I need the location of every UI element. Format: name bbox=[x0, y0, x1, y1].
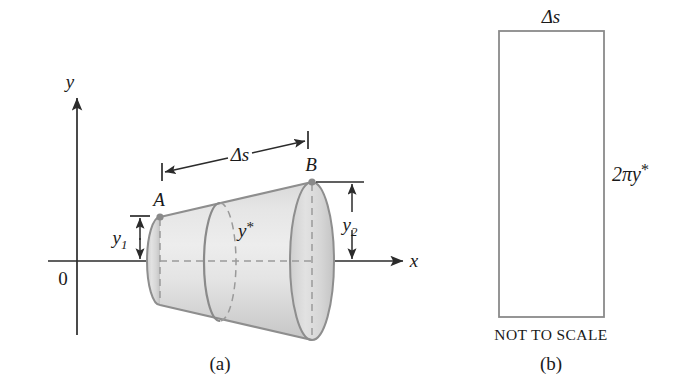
point-a-label: A bbox=[151, 189, 165, 210]
unrolled-rectangle bbox=[499, 31, 604, 317]
circumference-label-base: 2πy bbox=[612, 163, 641, 186]
circumference-label-star: * bbox=[641, 161, 649, 178]
not-to-scale-note: NOT TO SCALE bbox=[494, 326, 607, 343]
y2-label: y2 bbox=[341, 214, 358, 239]
panel-a-group: y x 0 A B Δs y1 y2 y* (a) bbox=[48, 71, 419, 375]
panel-a-caption: (a) bbox=[209, 353, 230, 375]
delta-s-label: Δs bbox=[230, 144, 250, 165]
origin-label: 0 bbox=[58, 268, 68, 289]
figure-container: y x 0 A B Δs y1 y2 y* (a) Δs 2πy* bbox=[0, 0, 691, 390]
point-a-dot bbox=[156, 213, 163, 220]
y2-label-base: y bbox=[341, 214, 352, 235]
panel-b-delta-s-label: Δs bbox=[541, 6, 561, 27]
point-b-label: B bbox=[305, 154, 317, 175]
figure-svg: y x 0 A B Δs y1 y2 y* (a) Δs 2πy* bbox=[0, 0, 691, 390]
x-axis-label: x bbox=[409, 250, 419, 271]
y-axis-label: y bbox=[64, 71, 75, 92]
panel-b-caption: (b) bbox=[540, 353, 562, 375]
y1-label-sub: 1 bbox=[121, 237, 127, 252]
point-b-dot bbox=[308, 178, 315, 185]
y1-label: y1 bbox=[111, 227, 128, 252]
frustum-left-cap bbox=[147, 217, 160, 305]
ystar-label-star: * bbox=[246, 218, 254, 235]
delta-s-arrow-left bbox=[165, 158, 228, 172]
panel-b-circumference-label: 2πy* bbox=[612, 161, 649, 186]
y1-label-base: y bbox=[111, 227, 122, 248]
delta-s-arrow-right bbox=[252, 141, 305, 153]
y2-label-sub: 2 bbox=[351, 224, 358, 239]
panel-b-group: Δs 2πy* NOT TO SCALE (b) bbox=[494, 6, 649, 375]
ystar-label-base: y bbox=[236, 220, 247, 241]
